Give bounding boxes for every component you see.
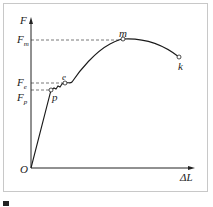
y-axis-label: F [20, 15, 27, 26]
point-k [177, 55, 181, 59]
figure-caption [3, 199, 9, 207]
tick-fm: Fm [17, 34, 29, 48]
y-axis-arrow-icon [29, 17, 33, 24]
label-m: m [119, 28, 127, 39]
tick-fp: Fp [17, 92, 27, 106]
x-axis-label: ΔL [180, 172, 193, 183]
tick-fe: Fe [17, 77, 27, 91]
label-e: e [62, 73, 66, 82]
caption-marker-icon [3, 201, 9, 206]
x-axis-arrow-icon [188, 166, 195, 170]
label-p: p [52, 92, 58, 103]
stress-strain-curve [31, 39, 179, 168]
label-k: k [178, 61, 183, 72]
origin-label: O [20, 164, 28, 175]
